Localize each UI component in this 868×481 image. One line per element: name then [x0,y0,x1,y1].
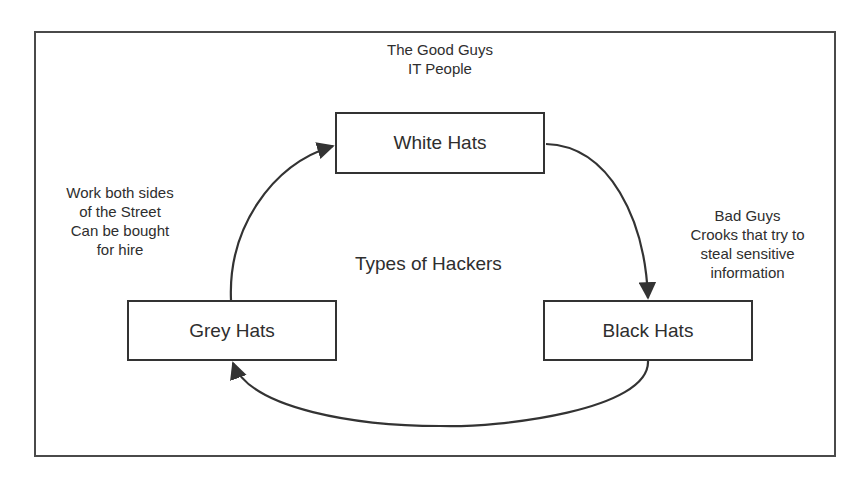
grey-hats-node: Grey Hats [127,300,337,361]
edge-white-to-black [546,144,648,298]
black-hats-node: Black Hats [543,300,753,361]
black-hats-annotation: Bad Guys Crooks that try to steal sensit… [675,206,820,282]
edge-black-to-grey [233,361,648,426]
white-hats-label: White Hats [394,132,487,154]
grey-hats-annotation: Work both sides of the Street Can be bou… [40,183,200,259]
black-hats-label: Black Hats [603,320,694,342]
edge-grey-to-white [231,146,333,300]
diagram-title: Types of Hackers [355,253,502,275]
grey-hats-label: Grey Hats [189,320,275,342]
white-hats-node: White Hats [335,112,545,174]
white-hats-annotation: The Good Guys IT People [355,40,525,78]
